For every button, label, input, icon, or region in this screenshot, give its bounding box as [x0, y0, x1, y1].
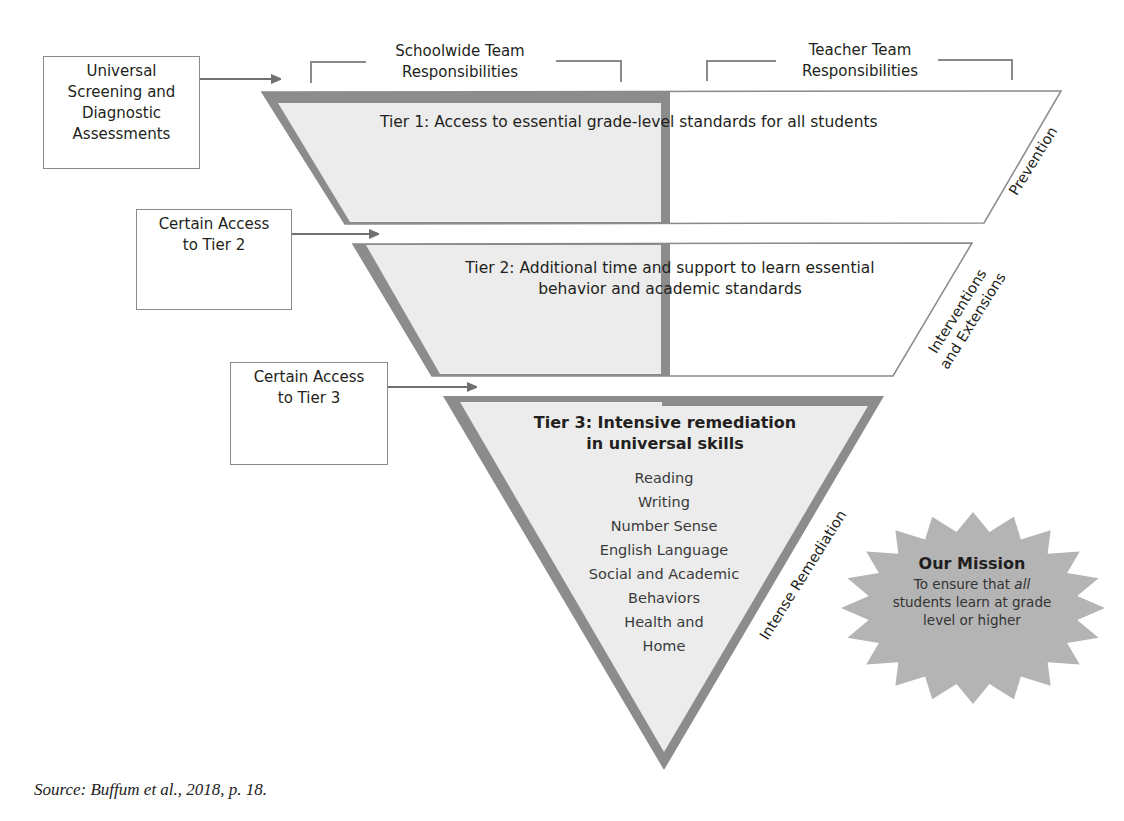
skill-item: Number Sense	[564, 514, 764, 538]
tier-1-title: Tier 1: Access to essential grade-level …	[380, 112, 960, 133]
mission-line-3: level or higher	[882, 611, 1062, 629]
skill-item: Home	[564, 634, 764, 658]
access-tier-2-box: Certain Access to Tier 2	[136, 209, 292, 310]
access-tier-2-label: Certain Access to Tier 2	[159, 214, 270, 309]
skill-item: Reading	[564, 466, 764, 490]
mission-line-1: To ensure that all	[882, 575, 1062, 593]
tier-3-title: Tier 3: Intensive remediation in univers…	[500, 412, 830, 454]
skill-item: Social and Academic	[564, 562, 764, 586]
source-citation: Source: Buffum et al., 2018, p. 18.	[34, 780, 267, 800]
universal-screening-label: Universal Screening and Diagnostic Asses…	[68, 61, 176, 168]
mission-statement: Our Mission To ensure that all students …	[882, 553, 1062, 629]
schoolwide-team-label: Schoolwide Team Responsibilities	[360, 41, 560, 83]
tier-1-shape	[262, 91, 1061, 224]
teacher-team-label: Teacher Team Responsibilities	[760, 40, 960, 82]
mission-emphasis: all	[1014, 576, 1030, 592]
mission-heading: Our Mission	[882, 553, 1062, 575]
mission-line-2: students learn at grade	[882, 593, 1062, 611]
tier-2-title: Tier 2: Additional time and support to l…	[410, 258, 930, 300]
tier-3-skills-list: Reading Writing Number Sense English Lan…	[564, 466, 764, 658]
skill-item: Writing	[564, 490, 764, 514]
skill-item: English Language	[564, 538, 764, 562]
mission-text: To ensure that	[914, 576, 1015, 592]
skill-item: Behaviors	[564, 586, 764, 610]
access-tier-3-label: Certain Access to Tier 3	[254, 367, 365, 464]
universal-screening-box: Universal Screening and Diagnostic Asses…	[43, 56, 200, 169]
skill-item: Health and	[564, 610, 764, 634]
access-tier-3-box: Certain Access to Tier 3	[230, 362, 388, 465]
